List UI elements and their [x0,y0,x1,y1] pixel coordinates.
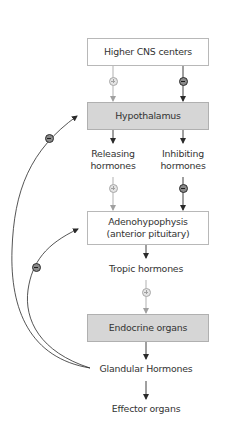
minus-sign-icon [179,184,188,193]
node-higher-cns-centers: Higher CNS centers [87,38,209,66]
node-endocrine-organs: Endocrine organs [87,314,209,342]
node-inhibiting-hormones: Inhibiting hormones [158,148,208,172]
label-line: Adenohypophysis [108,216,188,228]
minus-sign-icon [179,77,188,86]
minus-sign-icon [45,134,54,143]
plus-sign-icon [109,77,118,86]
node-glandular-hormones: Glandular Hormones [91,363,201,375]
label-line: (anterior pituitary) [106,228,189,240]
feedback-curve-to-hypothalamus [12,116,90,368]
node-effector-organs: Effector organs [101,403,191,415]
plus-sign-icon [142,288,151,297]
node-label: Higher CNS centers [104,46,192,58]
node-tropic-hormones: Tropic hormones [96,263,196,275]
node-label: Effector organs [112,403,181,414]
label-line: Releasing [88,148,138,160]
node-label: Endocrine organs [109,322,188,334]
label-line: hormones [88,160,138,172]
node-label: Hypothalamus [115,110,181,122]
node-adenohypophysis: Adenohypophysis (anterior pituitary) [87,211,209,245]
node-label: Glandular Hormones [100,363,193,374]
node-releasing-hormones: Releasing hormones [88,148,138,172]
plus-sign-icon [109,184,118,193]
feedback-curve-to-adenohypophysis [27,229,90,368]
minus-sign-icon [32,263,41,272]
label-line: Inhibiting [158,148,208,160]
node-label: Tropic hormones [109,263,183,274]
label-line: hormones [158,160,208,172]
hormone-regulation-diagram: Higher CNS centers Hypothalamus Releasin… [0,0,225,437]
node-hypothalamus: Hypothalamus [87,102,209,130]
